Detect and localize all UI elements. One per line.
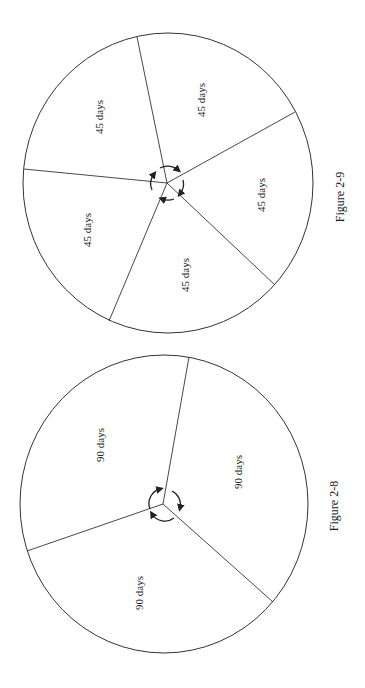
figure-caption: Figure 2-9: [333, 172, 347, 222]
segment-label: 45 days: [255, 178, 267, 212]
figure-caption: Figure 2-8: [327, 481, 341, 531]
segment-label: 45 days: [81, 213, 93, 247]
figure-2-9-diagram: 45 days 45 days 45 days 45 days 45 days …: [23, 33, 347, 333]
segment-label: 45 days: [195, 83, 207, 117]
segment-label: 90 days: [94, 428, 106, 462]
cycle-circle: [23, 33, 313, 333]
segment-label: 90 days: [133, 576, 145, 610]
segment-label: 45 days: [93, 100, 105, 134]
segment-label: 45 days: [179, 258, 191, 292]
figures-canvas: 45 days 45 days 45 days 45 days 45 days …: [0, 0, 365, 688]
segment-label: 90 days: [232, 455, 244, 489]
figure-2-8-diagram: 90 days 90 days 90 days Figure 2-8: [20, 355, 341, 653]
cycle-circle: [20, 355, 308, 653]
